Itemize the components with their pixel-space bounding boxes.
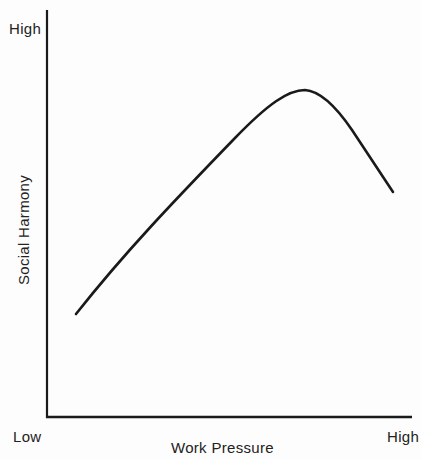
harmony-pressure-chart: High Social Harmony Low Work Pressure Hi…	[0, 0, 421, 460]
harmony-curve	[76, 90, 393, 314]
y-axis-max-label: High	[9, 21, 41, 36]
x-axis-max-label: High	[387, 429, 419, 444]
y-axis-title: Social Harmony	[16, 175, 31, 285]
origin-label: Low	[13, 429, 41, 444]
plot-area	[0, 0, 421, 460]
x-axis-title: Work Pressure	[171, 440, 274, 455]
